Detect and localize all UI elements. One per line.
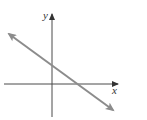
line-graph-figure: x y xyxy=(0,0,147,120)
y-axis-label: y xyxy=(42,9,48,21)
plotted-line xyxy=(9,34,113,110)
x-axis-label: x xyxy=(111,84,117,96)
